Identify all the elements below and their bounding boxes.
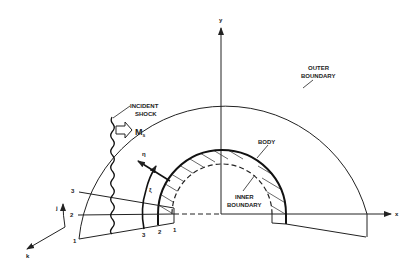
eta-arrow	[138, 161, 170, 181]
incident-shock-leader	[113, 106, 130, 118]
i-index-1: 1	[173, 227, 177, 233]
outer-boundary-bottom-right	[286, 224, 366, 237]
grid-line-j2	[78, 214, 174, 215]
axis-k-label: k	[26, 253, 30, 259]
incident-shock-label-2: SHOCK	[135, 111, 157, 117]
inner-boundary-label-2: BOUNDARY	[227, 202, 261, 208]
incident-shock-label-1: INCIDENT	[130, 103, 159, 109]
j-axis-arrow	[63, 204, 65, 227]
inner-boundary-leader	[243, 175, 255, 191]
shock-mach-label: Ms	[135, 127, 146, 138]
axis-x-label: x	[395, 211, 399, 217]
k-axis-arrow	[27, 227, 65, 249]
computational-grid-diagram: y x	[0, 0, 417, 273]
body-leader	[257, 145, 268, 158]
incident-shock-line	[111, 117, 115, 234]
outer-boundary-label-1: OUTER	[308, 65, 330, 71]
body-surface	[158, 150, 286, 224]
grid-line-i3	[142, 166, 156, 229]
i-index-2: 2	[158, 229, 162, 235]
inner-boundary-label-1: INNER	[235, 194, 254, 200]
inner-boundary-right-base	[272, 223, 286, 224]
xi-label: ξ	[149, 187, 152, 194]
i-index-3: 3	[142, 232, 146, 238]
j-index-2: 2	[70, 212, 74, 218]
axis-y-label: y	[219, 17, 223, 23]
shock-direction-arrow	[116, 122, 132, 138]
eta-label: η	[142, 151, 146, 157]
axis-j-label: j	[55, 205, 58, 211]
j-index-3: 3	[71, 188, 75, 194]
body-label: BODY	[258, 139, 275, 145]
diagram-canvas: y x	[0, 0, 417, 273]
outer-boundary-leader	[303, 80, 313, 88]
outer-boundary-label-2: BOUNDARY	[301, 73, 335, 79]
j-index-1: 1	[73, 238, 77, 244]
